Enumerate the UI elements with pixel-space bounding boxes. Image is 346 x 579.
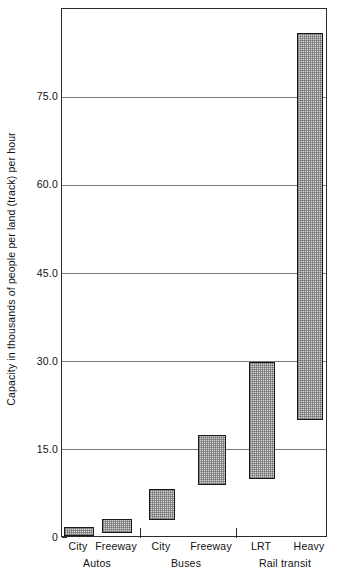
gridline-15.0 [62,449,326,450]
x-axis-labels: CityFreewayCityFreewayLRTHeavyAutosBuses… [61,540,327,579]
bar-autos-freeway [102,519,132,534]
x-tick-label-rail-transit-lrt: LRT [251,540,271,552]
group-separator-1 [140,528,141,538]
bar-rail-transit-heavy [297,33,323,421]
y-tick-label-0: 0 [10,531,58,543]
x-group-label-rail-transit: Rail transit [259,557,311,569]
group-separator-2 [236,528,237,538]
gridline-60.0 [62,185,326,186]
x-tick-label-autos-city: City [69,540,88,552]
bar-autos-city [64,527,94,536]
y-tick-label-75.0: 75.0 [10,90,58,102]
plot-area [61,8,327,537]
gridline-45.0 [62,273,326,274]
y-tick-mark-0 [62,537,67,538]
capacity-range-chart: Capacity in thousands of people per land… [0,0,346,579]
x-tick-label-rail-transit-heavy: Heavy [294,540,325,552]
gridline-30.0 [62,361,326,362]
x-tick-label-autos-freeway: Freeway [95,540,137,552]
x-tick-label-buses-freeway: Freeway [190,540,232,552]
y-axis-tick-labels: 015.030.045.060.075.0 [6,0,58,579]
gridline-75.0 [62,97,326,98]
y-tick-label-45.0: 45.0 [10,267,58,279]
y-tick-label-30.0: 30.0 [10,355,58,367]
bar-rail-transit-lrt [249,362,275,480]
y-tick-label-60.0: 60.0 [10,178,58,190]
x-group-label-autos: Autos [83,557,111,569]
x-tick-label-buses-city: City [152,540,171,552]
bar-buses-city [149,489,175,520]
x-group-label-buses: Buses [171,557,201,569]
y-tick-label-15.0: 15.0 [10,443,58,455]
bar-buses-freeway [198,435,226,486]
